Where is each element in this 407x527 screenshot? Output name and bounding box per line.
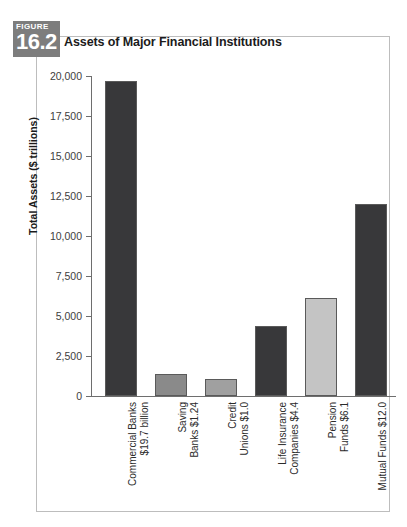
y-axis-tick-label: 12,500 — [34, 190, 82, 202]
y-axis-tick — [86, 116, 91, 117]
y-axis-tick-label: 7,500 — [34, 270, 82, 282]
y-axis-tick-label: 17,500 — [34, 110, 82, 122]
bar-chart: Total Assets ($ trillions) 20,00017,5001… — [0, 0, 407, 527]
bar — [155, 374, 187, 396]
y-axis-tick — [86, 236, 91, 237]
y-axis-tick — [86, 276, 91, 277]
bar — [205, 379, 237, 396]
y-axis-tick-label: 2,500 — [34, 350, 82, 362]
x-axis-label: Pension Funds $6.1 — [327, 402, 350, 520]
y-axis-tick-label: 5,000 — [34, 310, 82, 322]
bar — [255, 326, 287, 396]
bar — [305, 298, 337, 396]
y-axis-tick-label: 15,000 — [34, 150, 82, 162]
x-axis-label: Commercial Banks $19.7 billion — [127, 402, 150, 520]
y-axis-title: Total Assets ($ trillions) — [27, 106, 39, 246]
bar — [105, 81, 137, 396]
x-axis-label: Credit Unions $1.0 — [227, 402, 250, 520]
y-axis-tick — [86, 396, 91, 397]
y-axis-tick — [86, 76, 91, 77]
x-axis-label: Saving Banks $1.24 — [177, 402, 200, 520]
x-axis-line — [91, 396, 396, 397]
y-axis-tick-label: 20,000 — [34, 70, 82, 82]
bar — [355, 204, 387, 396]
figure-badge-number: 16.2 — [16, 30, 60, 53]
plot-area — [92, 76, 392, 396]
x-axis-label: Mutual Funds $12.0 — [377, 402, 389, 520]
x-axis-label: Life Insurance Companies $4.4 — [277, 402, 300, 520]
y-axis-tick — [86, 356, 91, 357]
y-axis-tick — [86, 196, 91, 197]
figure-badge: FIGURE 16.2 — [13, 21, 60, 57]
y-axis-tick-label: 0 — [34, 390, 82, 402]
y-axis-tick-label: 10,000 — [34, 230, 82, 242]
y-axis-tick — [86, 156, 91, 157]
y-axis-tick — [86, 316, 91, 317]
